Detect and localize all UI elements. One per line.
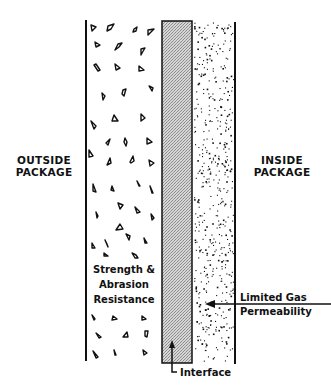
outside-label-line-1: OUTSIDE — [6, 154, 82, 166]
aggregate-particles — [89, 24, 154, 358]
package-wall-diagram — [0, 0, 331, 392]
outside-package-label: OUTSIDE PACKAGE — [6, 154, 82, 178]
inside-label-line-2: PACKAGE — [244, 166, 320, 178]
inner-layer-label-line-1: Limited Gas — [240, 291, 330, 305]
inner-layer-label: Limited Gas Permeability — [240, 291, 330, 319]
outer-layer-label-line-1: Strength & — [86, 262, 162, 277]
outer-layer-label-line-2: Abrasion — [86, 277, 162, 292]
interface-layer — [162, 21, 192, 363]
inside-package-label: INSIDE PACKAGE — [244, 154, 320, 178]
inside-label-line-1: INSIDE — [244, 154, 320, 166]
outer-layer-label-line-3: Resistance — [86, 292, 162, 307]
stipple-dots — [194, 23, 234, 362]
inner-layer-label-line-2: Permeability — [240, 305, 330, 319]
outer-layer-label: Strength & Abrasion Resistance — [86, 262, 162, 307]
outside-label-line-2: PACKAGE — [6, 166, 82, 178]
interface-label: Interface — [180, 367, 231, 379]
